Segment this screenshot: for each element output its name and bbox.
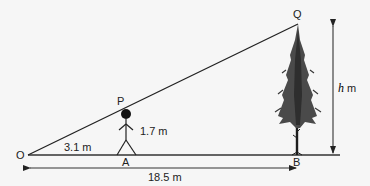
label-point-O: O xyxy=(16,149,25,161)
similar-triangles-diagram: O P Q A B 3.1 m 1.7 m 18.5 m h m xyxy=(0,0,370,186)
unit-m: m xyxy=(344,82,356,94)
label-height-h: h m xyxy=(338,81,356,95)
label-length-OB: 18.5 m xyxy=(148,171,182,183)
tree-icon xyxy=(275,24,321,155)
label-height-AP: 1.7 m xyxy=(140,125,168,137)
label-point-A: A xyxy=(122,156,130,168)
label-length-OA: 3.1 m xyxy=(64,141,92,153)
label-point-P: P xyxy=(117,95,124,107)
label-point-Q: Q xyxy=(293,8,302,20)
person-icon xyxy=(117,109,136,155)
label-point-B: B xyxy=(293,156,300,168)
